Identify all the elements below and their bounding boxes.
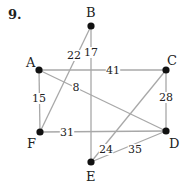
vertex-label-a: A (25, 55, 36, 70)
vertex-label-b: B (86, 5, 96, 20)
vertex-d (162, 127, 169, 134)
vertex-a (35, 66, 42, 73)
edge-b-f (40, 26, 91, 132)
vertex-label-d: D (169, 136, 179, 151)
edge-weight-c-d: 28 (159, 91, 173, 104)
edge-weight-b-f: 22 (67, 49, 81, 62)
weighted-graph: 9. 41158221728243135 ABCDEF (0, 0, 186, 188)
edge-f-d (40, 131, 166, 132)
edge-weight-b-e: 17 (84, 46, 98, 59)
edge-weight-e-d: 35 (128, 143, 142, 156)
vertex-label-c: C (167, 53, 177, 68)
edge-weight-f-d: 31 (60, 126, 74, 139)
edge-weight-a-c: 41 (106, 64, 120, 77)
vertex-e (87, 158, 94, 165)
vertex-f (36, 128, 43, 135)
vertex-label-f: F (27, 136, 36, 151)
vertex-b (87, 22, 94, 29)
edge-weight-a-f: 15 (32, 92, 46, 105)
edges-group (39, 26, 166, 162)
edge-weight-c-e: 24 (99, 143, 113, 156)
vertex-label-e: E (86, 169, 96, 184)
problem-number: 9. (8, 7, 22, 22)
edge-a-d (39, 70, 166, 131)
edge-weight-a-d: 8 (73, 81, 80, 94)
